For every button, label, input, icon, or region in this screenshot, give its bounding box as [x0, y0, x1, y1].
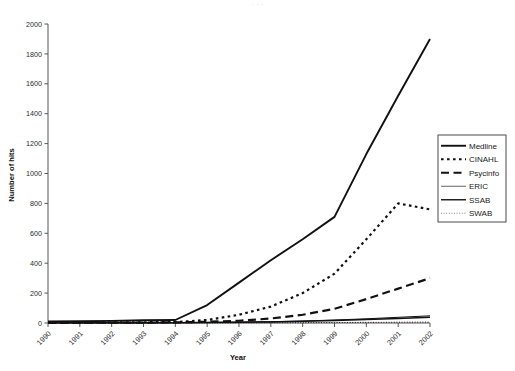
x-tick-label: 1991 [67, 329, 85, 347]
y-tick-label: 0 [38, 319, 42, 328]
x-tick-label: 1994 [162, 329, 180, 347]
y-tick-label: 1600 [26, 79, 42, 88]
series-line-cinahl [48, 203, 430, 322]
x-tick-label: 2001 [385, 329, 403, 347]
series-line-psycinfo [48, 278, 430, 323]
x-tick-label: 1998 [290, 329, 308, 347]
legend-label-eric: ERIC [469, 182, 488, 191]
x-tick-label: 1995 [194, 329, 212, 347]
legend-label-cinahl: CINAHL [469, 155, 499, 164]
y-tick-label: 800 [30, 199, 42, 208]
y-tick-label: 200 [30, 289, 42, 298]
x-tick-label: 1996 [226, 329, 244, 347]
y-tick-label: 600 [30, 229, 42, 238]
x-tick-label: 2000 [353, 329, 371, 347]
x-tick-label: 1993 [130, 329, 148, 347]
line-chart-plot: 0200400600800100012001400160018002000 19… [0, 0, 515, 371]
y-tick-label: 1400 [26, 109, 42, 118]
legend-label-psycinfo: Psycinfo [469, 169, 500, 178]
y-axis-title: Number of hits [7, 148, 16, 202]
chart-container: · · · 0200400600800100012001400160018002… [0, 0, 515, 371]
chart-legend: MedlineCINAHLPsycinfoERICSSABSWAB [438, 135, 506, 222]
y-tick-label: 2000 [26, 20, 42, 29]
x-tick-label: 1999 [321, 329, 339, 347]
legend-label-medline: Medline [469, 142, 498, 151]
legend-label-swab: SWAB [469, 209, 492, 218]
y-axis: 0200400600800100012001400160018002000 [26, 20, 48, 328]
series-lines [48, 39, 430, 323]
x-tick-label: 1997 [258, 329, 276, 347]
x-axis: 1990199119921993199419951996199719981999… [35, 323, 435, 347]
legend-label-ssab: SSAB [469, 196, 490, 205]
x-tick-label: 2002 [417, 329, 435, 347]
y-tick-label: 1200 [26, 139, 42, 148]
y-tick-label: 400 [30, 259, 42, 268]
x-tick-label: 1992 [99, 329, 117, 347]
x-tick-label: 1990 [35, 329, 53, 347]
x-axis-title: Year [230, 353, 246, 362]
y-tick-label: 1800 [26, 50, 42, 59]
series-line-medline [48, 39, 430, 322]
y-tick-label: 1000 [26, 169, 42, 178]
